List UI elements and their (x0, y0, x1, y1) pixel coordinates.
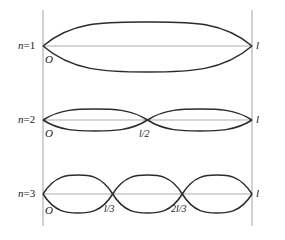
node-label-n3-third: l/3 (104, 204, 115, 214)
node-label-n3-two-thirds: 2l/3 (171, 204, 187, 214)
origin-label-n1: O (45, 54, 53, 65)
mode-group-n3 (43, 175, 252, 213)
wave-curve-n3-loop2-upper (113, 175, 183, 194)
origin-label-n3: O (45, 205, 53, 216)
mode-label-n3: n=3 (18, 188, 35, 199)
standing-wave-svg (0, 0, 285, 240)
wave-curve-n2-loop2-upper (148, 109, 253, 120)
wave-curve-n3-loop1-lower (43, 194, 113, 213)
standing-wave-diagram: n=1 O l n=2 O l/2 l n=3 O l/3 2l/3 l (0, 0, 285, 240)
wave-curve-n1-lower (43, 46, 252, 72)
wave-curve-n3-loop1-upper (43, 175, 113, 194)
wave-curve-n3-loop3-lower (182, 194, 252, 213)
mode-group-n1 (43, 22, 252, 72)
wave-curve-n2-loop1-upper (43, 109, 148, 120)
node-label-n2-half: l/2 (139, 129, 150, 139)
wave-curve-n2-loop1-lower (43, 120, 148, 131)
wave-curve-n1-upper (43, 22, 252, 46)
mode-label-n1-value: =1 (24, 39, 36, 51)
wave-curve-n3-loop3-upper (182, 175, 252, 194)
end-label-n3: l (256, 188, 259, 199)
wave-curve-n2-loop2-lower (148, 120, 253, 131)
mode-label-n2-value: =2 (24, 113, 36, 125)
mode-label-n1: n=1 (18, 40, 35, 51)
end-label-n1: l (256, 40, 259, 51)
mode-label-n3-value: =3 (24, 187, 36, 199)
mode-label-n2: n=2 (18, 114, 35, 125)
origin-label-n2: O (45, 128, 53, 139)
end-label-n2: l (256, 114, 259, 125)
